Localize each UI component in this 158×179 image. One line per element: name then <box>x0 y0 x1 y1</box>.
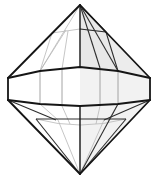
crystal-diagram <box>0 0 158 179</box>
crystal-figure <box>0 0 158 179</box>
